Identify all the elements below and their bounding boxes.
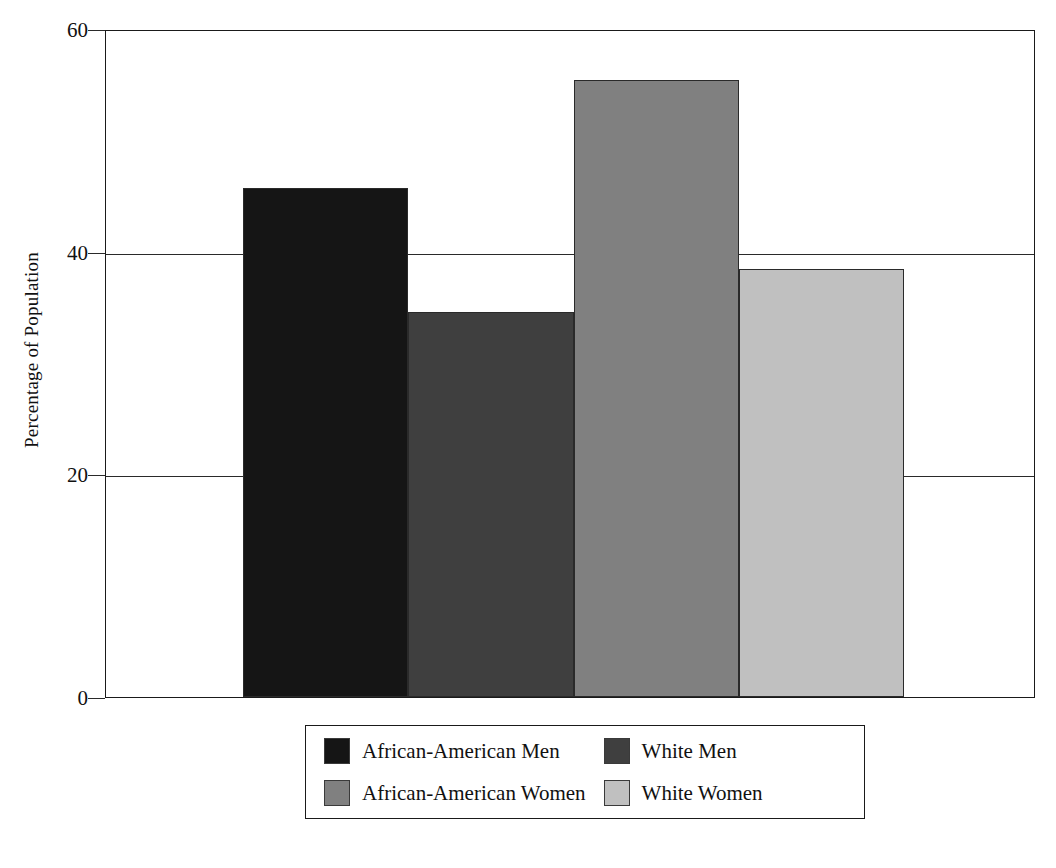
y-tick-label-60: 60 — [18, 20, 88, 41]
bar-2 — [408, 312, 573, 697]
legend-swatch-icon — [604, 780, 630, 806]
legend-item-label: White Women — [642, 781, 763, 806]
legend-item: African-American Women — [306, 780, 586, 806]
legend-item: African-American Men — [306, 738, 586, 764]
bar-1 — [243, 188, 408, 697]
y-tick-label-0: 0 — [18, 688, 88, 709]
legend-swatch-icon — [604, 738, 630, 764]
bar-chart-figure: Percentage of Population 0204060 African… — [0, 0, 1056, 868]
legend-item: White Men — [586, 738, 864, 764]
y-tick-mark-0 — [88, 698, 105, 699]
legend-swatch-icon — [324, 780, 350, 806]
legend-item: White Women — [586, 780, 864, 806]
y-tick-label-20: 20 — [18, 465, 88, 486]
legend-item-label: African-American Women — [362, 781, 586, 806]
legend-swatch-icon — [324, 738, 350, 764]
chart-legend: African-American MenWhite MenAfrican-Ame… — [305, 725, 865, 819]
bar-series — [106, 31, 1034, 697]
y-tick-label-40: 40 — [18, 242, 88, 263]
legend-item-label: White Men — [642, 739, 737, 764]
y-tick-mark-20 — [88, 475, 105, 476]
y-tick-mark-60 — [88, 30, 105, 31]
legend-item-label: African-American Men — [362, 739, 560, 764]
plot-area — [105, 30, 1035, 698]
bar-3 — [574, 80, 739, 697]
y-axis-tick-labels: 0204060 — [0, 0, 88, 868]
y-tick-mark-40 — [88, 253, 105, 254]
bar-4 — [739, 269, 904, 697]
